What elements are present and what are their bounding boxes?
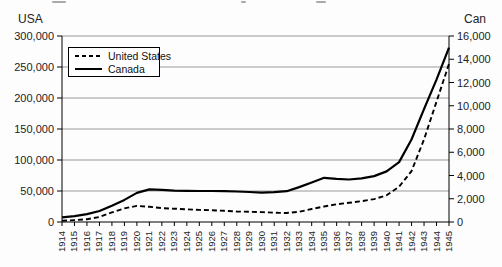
legend-label-canada: Canada [108,63,145,75]
x-axis-year-label: 1928 [232,226,242,252]
x-axis-year-label: 1940 [382,226,392,252]
x-axis-year-label: 1926 [207,226,217,252]
x-axis-year-label: 1932 [282,226,292,252]
united-states-line [62,64,449,221]
right-axis-tick-label: 12,000 [457,77,502,89]
left-axis-tick-label: 150,000 [0,123,54,135]
right-axis-tick-label: 8,000 [457,123,502,135]
x-axis-year-label: 1945 [444,226,454,252]
right-axis-tick-label: 4,000 [457,170,502,182]
x-axis-year-label: 1914 [57,226,67,252]
x-axis-year-label: 1942 [407,226,417,252]
x-axis-year-label: 1937 [344,226,354,252]
legend-item-united-states: United States [75,49,159,62]
x-axis-year-label: 1924 [182,226,192,252]
left-axis-tick-label: 250,000 [0,61,54,73]
x-axis-year-label: 1936 [332,226,342,252]
right-axis-tick-label: 16,000 [457,30,502,42]
x-axis-year-label: 1925 [194,226,204,252]
x-axis-year-label: 1944 [432,226,442,252]
x-axis-year-label: 1915 [69,226,79,252]
x-axis-year-label: 1935 [319,226,329,252]
chart-figure: USA Can 050,000100,000150,000200,000250,… [0,0,502,267]
x-axis-year-label: 1920 [132,226,142,252]
left-axis-tick-label: 0 [0,216,54,228]
x-axis-year-label: 1921 [144,226,154,252]
x-axis-year-label: 1943 [419,226,429,252]
canada-line-sample-icon [75,68,102,70]
right-axis-tick-label: 6,000 [457,146,502,158]
right-axis-tick-label: 2,000 [457,193,502,205]
x-axis-year-label: 1930 [257,226,267,252]
legend: United States Canada [68,47,160,77]
x-axis-year-label: 1938 [357,226,367,252]
left-axis-tick-label: 200,000 [0,92,54,104]
left-axis-tick-label: 100,000 [0,154,54,166]
x-axis-year-label: 1931 [269,226,279,252]
x-axis-year-label: 1929 [244,226,254,252]
x-axis-year-label: 1922 [157,226,167,252]
united-states-line-sample-icon [75,55,102,57]
right-axis-tick-label: 0 [457,216,502,228]
x-axis-year-label: 1918 [107,226,117,252]
right-axis-tick-label: 10,000 [457,100,502,112]
left-axis-tick-label: 50,000 [0,185,54,197]
x-axis-year-label: 1919 [119,226,129,252]
x-axis-year-label: 1916 [82,226,92,252]
x-axis-year-label: 1917 [94,226,104,252]
right-axis-tick-label: 14,000 [457,53,502,65]
x-axis-year-label: 1941 [394,226,404,252]
x-axis-year-label: 1923 [169,226,179,252]
x-axis-year-label: 1934 [307,226,317,252]
legend-item-canada: Canada [75,62,159,75]
legend-label-united-states: United States [108,50,171,62]
x-axis-year-label: 1927 [219,226,229,252]
x-axis-year-label: 1933 [294,226,304,252]
left-axis-tick-label: 300,000 [0,30,54,42]
x-axis-year-label: 1939 [369,226,379,252]
